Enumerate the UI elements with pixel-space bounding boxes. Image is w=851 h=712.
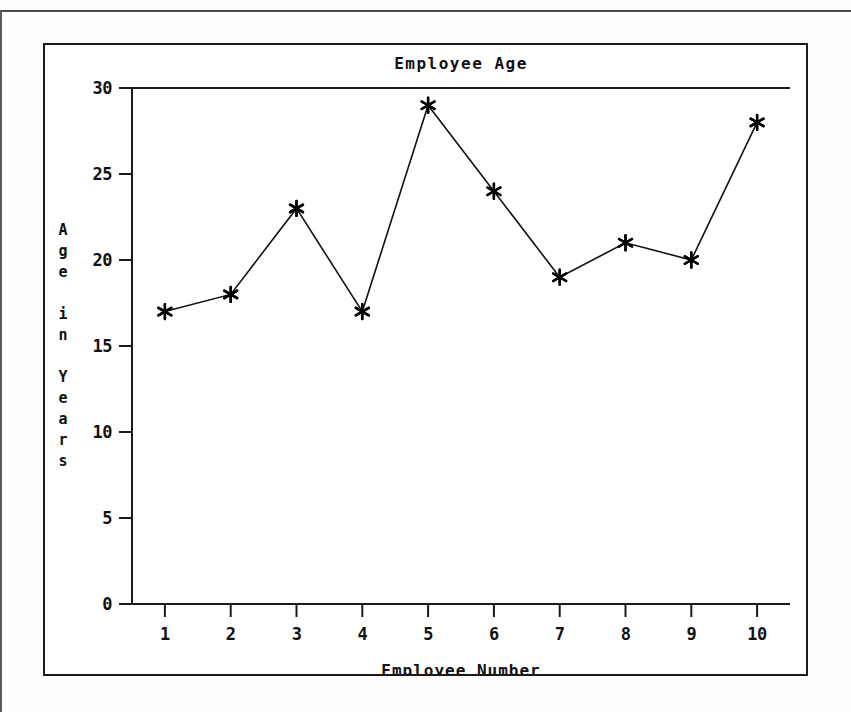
chart-title-group: Employee Age	[394, 54, 528, 73]
y-axis-title-char: Y	[58, 368, 67, 386]
x-tick-label: 8	[621, 624, 631, 644]
x-tick-label: 10	[747, 624, 767, 644]
y-axis-title-group: AgeinYears	[58, 221, 67, 470]
y-axis-title-char: A	[58, 221, 67, 239]
y-tick-label: 0	[102, 594, 112, 614]
x-axis-title: Employee Number	[381, 661, 541, 674]
y-tick-label: 25	[93, 164, 113, 184]
y-tick-label: 30	[93, 78, 113, 98]
x-tick-label: 2	[226, 624, 236, 644]
x-tick-label: 4	[357, 624, 367, 644]
axes-group	[132, 88, 790, 604]
x-tick-label: 1	[160, 624, 170, 644]
scanned-page: Employee Age 051015202530 12345678910 Ag…	[0, 0, 851, 712]
y-axis-title-char: e	[58, 263, 67, 281]
y-tick-group: 051015202530	[93, 78, 132, 614]
y-tick-label: 10	[93, 422, 113, 442]
data-point-marker	[685, 253, 698, 268]
x-tick-label: 9	[686, 624, 696, 644]
data-point-marker	[158, 304, 171, 319]
y-axis-title-char: e	[58, 389, 67, 407]
data-point-marker	[356, 304, 369, 319]
y-axis-title-char: a	[58, 410, 67, 428]
x-tick-label: 5	[423, 624, 433, 644]
y-axis-title-char: n	[58, 326, 67, 344]
data-point-marker	[619, 235, 632, 250]
x-tick-label: 7	[555, 624, 565, 644]
y-tick-label: 20	[93, 250, 113, 270]
y-axis-title-char: r	[58, 431, 67, 449]
y-tick-label: 5	[102, 508, 112, 528]
page-top-rule	[0, 10, 851, 12]
line-chart: Employee Age 051015202530 12345678910 Ag…	[45, 45, 806, 674]
x-axis-title-group: Employee Number	[381, 661, 541, 674]
y-tick-label: 15	[93, 336, 113, 356]
y-axis-title-char: s	[58, 452, 67, 470]
y-axis-title-char: i	[58, 305, 67, 323]
chart-title: Employee Age	[394, 54, 528, 73]
x-tick-label: 6	[489, 624, 499, 644]
data-line-group	[165, 105, 757, 311]
y-axis-title-char: g	[58, 242, 67, 260]
x-tick-group: 12345678910	[160, 604, 767, 644]
data-polyline	[165, 105, 757, 311]
data-marker-group	[158, 98, 763, 319]
x-tick-label: 3	[292, 624, 302, 644]
data-point-marker	[751, 115, 764, 130]
page-left-rule	[0, 10, 2, 712]
chart-frame: Employee Age 051015202530 12345678910 Ag…	[43, 43, 808, 676]
